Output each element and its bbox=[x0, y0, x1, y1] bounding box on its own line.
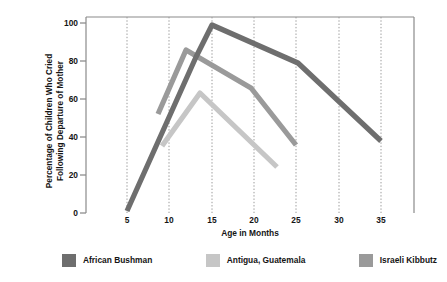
x-tick-label: 20 bbox=[234, 215, 274, 225]
x-tick-label: 30 bbox=[319, 215, 359, 225]
legend-label: Antigua, Guatemala bbox=[227, 255, 306, 265]
x-tick-label: 10 bbox=[149, 215, 189, 225]
legend-label: African Bushman bbox=[83, 255, 152, 265]
legend-item-african-bushman: African Bushman bbox=[62, 254, 152, 267]
chart-legend: African Bushman Antigua, Guatemala Israe… bbox=[62, 250, 437, 270]
x-tick-label: 35 bbox=[361, 215, 401, 225]
legend-item-israeli-kibbutz: Israeli Kibbutz bbox=[359, 254, 437, 267]
legend-swatch-icon bbox=[359, 254, 373, 267]
x-axis-title: Age in Months bbox=[86, 228, 414, 238]
legend-swatch-icon bbox=[206, 254, 220, 267]
chart-figure: Percentage of Children Who Cried Followi… bbox=[0, 0, 447, 282]
x-tick-label: 15 bbox=[192, 215, 232, 225]
x-tick-label: 25 bbox=[276, 215, 316, 225]
series-line-antigua-guatemala bbox=[162, 93, 277, 167]
legend-label: Israeli Kibbutz bbox=[380, 255, 437, 265]
plot-area bbox=[0, 0, 447, 282]
legend-item-antigua-guatemala: Antigua, Guatemala bbox=[206, 254, 306, 267]
legend-swatch-icon bbox=[62, 254, 76, 267]
x-tick-label: 5 bbox=[107, 215, 147, 225]
y-tick-marks bbox=[80, 23, 86, 213]
plot-frame bbox=[86, 17, 414, 213]
